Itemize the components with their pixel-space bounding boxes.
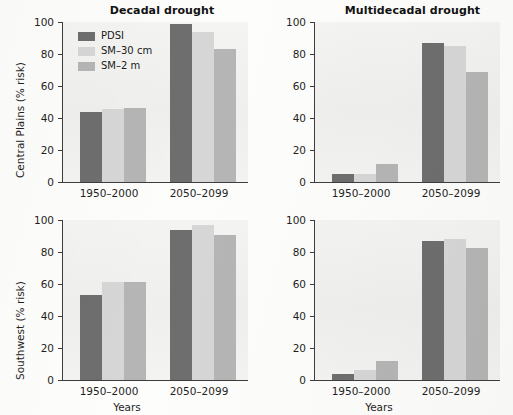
bar-sm2m-1950-2000	[376, 361, 398, 380]
y-tick-label: 20	[280, 342, 306, 354]
bar-sm2m-2050-2099	[214, 235, 236, 380]
panel-central-plains-decadal: Decadal drought Central Plains (% risk) …	[0, 0, 256, 208]
bar-pdsi-1950-2000	[80, 295, 102, 380]
x-axis-line	[314, 380, 500, 381]
y-tick	[58, 182, 62, 183]
x-tick-label: 1950–2000	[73, 385, 145, 397]
y-tick-label: 80	[280, 48, 306, 60]
bar-sm2m-1950-2000	[124, 108, 146, 182]
bar-sm2m-1950-2000	[376, 164, 398, 182]
y-tick-label: 100	[280, 16, 306, 28]
y-axis-label: Central Plains (% risk)	[14, 62, 26, 178]
y-tick-label: 80	[28, 48, 54, 60]
y-tick-label: 0	[28, 374, 54, 386]
bar-sm2m-1950-2000	[124, 282, 146, 380]
x-tick-label: 1950–2000	[73, 187, 145, 199]
y-tick	[310, 380, 314, 381]
y-tick-label: 60	[28, 278, 54, 290]
bar-sm30cm-2050-2099	[192, 225, 214, 380]
x-axis-label: Years	[286, 401, 472, 413]
bar-pdsi-2050-2099	[422, 43, 444, 182]
y-axis-label: Southwest (% risk)	[14, 281, 26, 380]
y-tick-label: 60	[280, 278, 306, 290]
bar-sm30cm-1950-2000	[102, 282, 124, 380]
y-tick-label: 40	[280, 310, 306, 322]
y-tick	[310, 182, 314, 183]
bar-pdsi-1950-2000	[332, 174, 354, 182]
x-tick-label: 2050–2099	[163, 385, 235, 397]
y-tick-label: 60	[280, 80, 306, 92]
y-tick-label: 20	[28, 144, 54, 156]
y-tick-label: 0	[28, 176, 54, 188]
bar-sm30cm-1950-2000	[354, 174, 376, 182]
x-tick-label: 1950–2000	[325, 187, 397, 199]
y-tick-label: 0	[280, 176, 306, 188]
bar-pdsi-1950-2000	[80, 112, 102, 182]
x-axis-line	[62, 380, 248, 381]
bar-sm30cm-2050-2099	[444, 239, 466, 380]
bar-pdsi-2050-2099	[170, 230, 192, 380]
x-axis-line	[62, 182, 248, 183]
panel-central-plains-multidecadal: Multidecadal drought 0 20 40 60 80 100 1…	[256, 0, 513, 208]
figure-drought-risk: Decadal drought Central Plains (% risk) …	[0, 0, 513, 415]
y-tick-label: 40	[280, 112, 306, 124]
y-tick-label: 40	[28, 112, 54, 124]
x-tick-label: 2050–2099	[415, 187, 487, 199]
y-tick-label: 40	[28, 310, 54, 322]
y-tick-label: 100	[28, 16, 54, 28]
bar-pdsi-1950-2000	[332, 374, 354, 380]
bar-pdsi-2050-2099	[170, 24, 192, 182]
y-tick-label: 100	[280, 214, 306, 226]
y-tick-label: 0	[280, 374, 306, 386]
y-tick-label: 20	[28, 342, 54, 354]
x-axis-line	[314, 182, 500, 183]
x-tick-label: 2050–2099	[415, 385, 487, 397]
panel-southwest-multidecadal: 0 20 40 60 80 100 1950–2000 2050–2099 Ye…	[256, 205, 513, 415]
bar-sm2m-2050-2099	[466, 72, 488, 182]
x-tick-label: 2050–2099	[163, 187, 235, 199]
y-tick-label: 60	[28, 80, 54, 92]
y-tick-label: 20	[280, 144, 306, 156]
x-tick-label: 1950–2000	[325, 385, 397, 397]
y-tick-label: 80	[28, 246, 54, 258]
x-axis-label: Years	[34, 401, 220, 413]
bar-sm30cm-1950-2000	[354, 370, 376, 380]
bar-sm2m-2050-2099	[466, 248, 488, 380]
bar-sm30cm-1950-2000	[102, 109, 124, 182]
bar-pdsi-2050-2099	[422, 241, 444, 380]
bar-sm30cm-2050-2099	[192, 32, 214, 182]
y-tick-label: 80	[280, 246, 306, 258]
bar-sm30cm-2050-2099	[444, 46, 466, 182]
bar-sm2m-2050-2099	[214, 49, 236, 182]
y-tick	[58, 380, 62, 381]
panel-southwest-decadal: Southwest (% risk) 0 20 40 60 80 100 195…	[0, 205, 256, 415]
y-tick-label: 100	[28, 214, 54, 226]
